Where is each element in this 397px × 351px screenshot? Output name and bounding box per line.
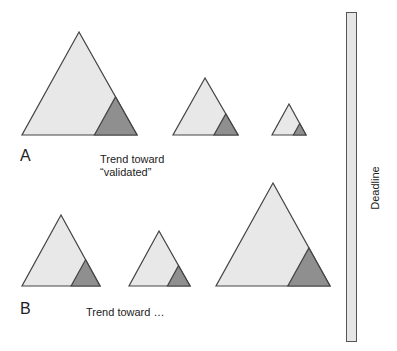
row-a-triangle-large: [22, 32, 137, 135]
deadline-label: Deadline: [369, 163, 381, 213]
row-a-caption-line1: Trend toward: [100, 153, 164, 166]
row-a-triangle-medium: [173, 78, 238, 135]
row-a-triangle-small: [272, 104, 306, 135]
row-b-caption: Trend toward …: [86, 306, 164, 319]
diagram-canvas: [0, 0, 397, 351]
row-a-label: A: [20, 147, 31, 165]
row-b-triangle-medium: [22, 215, 100, 286]
row-b-triangle-large: [216, 183, 330, 286]
deadline-bar: [346, 12, 357, 342]
row-b-triangle-small: [129, 231, 190, 286]
row-b-label: B: [20, 300, 31, 318]
row-a-caption-line2: “validated”: [100, 166, 164, 179]
row-a-caption: Trend toward “validated”: [100, 153, 164, 179]
